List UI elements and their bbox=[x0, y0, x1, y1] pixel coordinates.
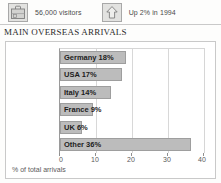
bar-row: USA 17% bbox=[60, 68, 204, 81]
header-stats-bar: 56,000 visitors Up 2% in 1994 bbox=[0, 0, 221, 25]
bar-label-france: France 9% bbox=[64, 105, 102, 114]
stat-change-label: Up 2% in 1994 bbox=[129, 9, 176, 16]
x-axis-caption: % of total arrivals bbox=[12, 166, 66, 173]
stat-change: Up 2% in 1994 bbox=[102, 3, 176, 22]
bar-row: Italy 14% bbox=[60, 86, 204, 99]
tick-label-30: 30 bbox=[163, 156, 171, 163]
bar-row: Other 36% bbox=[60, 138, 204, 151]
bar-row: UK 6% bbox=[60, 121, 204, 134]
tick-label-40: 40 bbox=[198, 156, 206, 163]
bar-label-usa: USA 17% bbox=[64, 70, 97, 79]
tick-label-10: 10 bbox=[91, 156, 99, 163]
bar-label-italy: Italy 14% bbox=[64, 88, 96, 97]
tick-label-0: 0 bbox=[59, 156, 63, 163]
tick-label-20: 20 bbox=[127, 156, 135, 163]
stat-visitors-label: 56,000 visitors bbox=[35, 9, 82, 16]
bar-row: France 9% bbox=[60, 103, 204, 116]
up-arrow-icon bbox=[102, 3, 122, 22]
chart-panel: Germany 18% USA 17% Italy 14% France 9% bbox=[5, 41, 216, 179]
page-title: MAIN OVERSEAS ARRIVALS bbox=[4, 27, 127, 37]
stat-visitors: 56,000 visitors bbox=[8, 3, 82, 22]
suitcase-icon bbox=[8, 3, 28, 22]
chart-plot-area: Germany 18% USA 17% Italy 14% France 9% bbox=[59, 48, 205, 153]
bar-list: Germany 18% USA 17% Italy 14% France 9% bbox=[60, 49, 204, 153]
bar-label-germany: Germany 18% bbox=[64, 53, 114, 62]
x-axis: 0 10 20 30 40 bbox=[59, 153, 205, 165]
bar-row: Germany 18% bbox=[60, 51, 204, 64]
infographic-panel: 56,000 visitors Up 2% in 1994 MAIN OVERS… bbox=[0, 0, 221, 183]
bar-label-uk: UK 6% bbox=[64, 123, 88, 132]
bar-label-other: Other 36% bbox=[64, 140, 101, 149]
